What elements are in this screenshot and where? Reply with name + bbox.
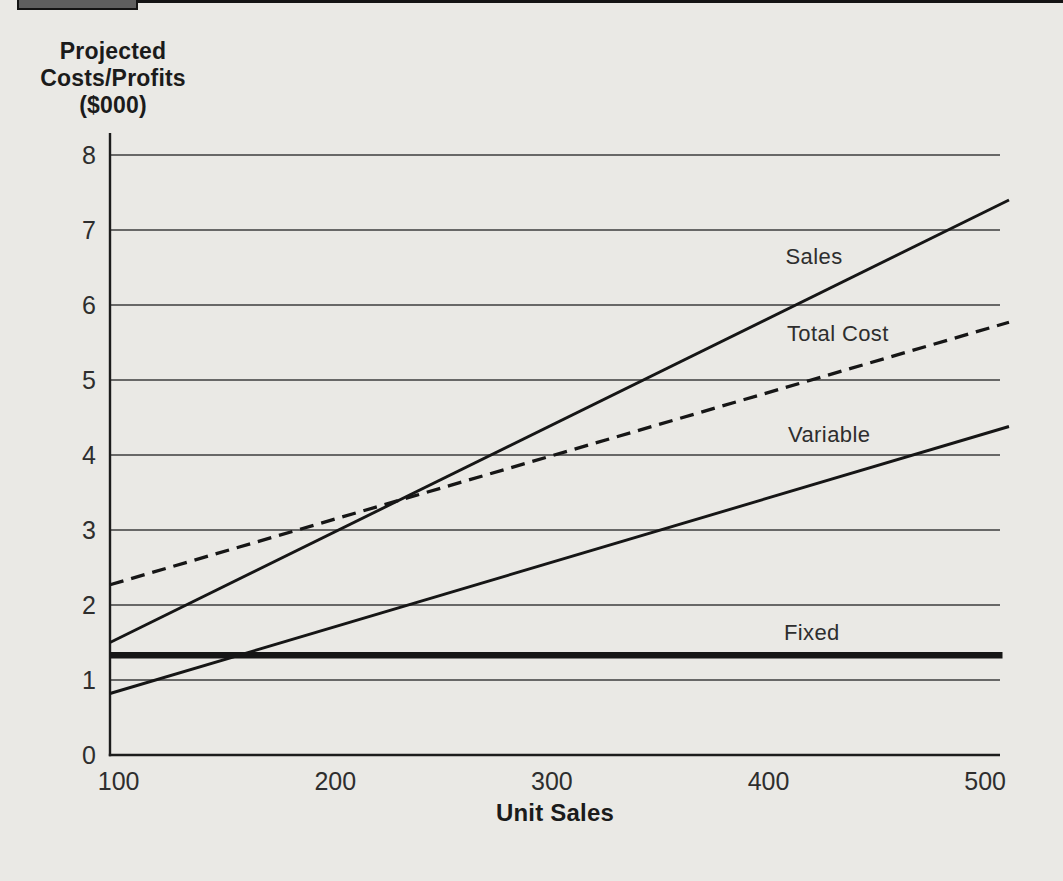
y-tick-label-5: 5 [82, 365, 96, 395]
series-label-variable: Variable [788, 422, 870, 448]
book-page: Projected Costs/Profits ($000) 012345678… [0, 0, 1063, 881]
x-axis-title: Unit Sales [496, 799, 614, 827]
series-label-fixed: Fixed [784, 620, 840, 646]
series-label-sales: Sales [786, 244, 843, 270]
y-tick-label-8: 8 [82, 140, 96, 170]
x-tick-label-300: 300 [531, 767, 573, 795]
y-tick-label-1: 1 [82, 665, 96, 695]
x-tick-label-100: 100 [98, 767, 140, 795]
chart-labels-layer: 012345678100200300400500SalesTotal CostV… [0, 0, 1063, 881]
y-tick-label-6: 6 [82, 290, 96, 320]
y-tick-label-0: 0 [82, 740, 96, 770]
y-tick-label-2: 2 [82, 590, 96, 620]
series-label-total-cost: Total Cost [787, 321, 889, 347]
x-tick-label-500: 500 [964, 767, 1006, 795]
y-tick-label-3: 3 [82, 515, 96, 545]
y-tick-label-7: 7 [82, 215, 96, 245]
x-tick-label-400: 400 [748, 767, 790, 795]
y-tick-label-4: 4 [82, 440, 96, 470]
x-tick-label-200: 200 [314, 767, 356, 795]
